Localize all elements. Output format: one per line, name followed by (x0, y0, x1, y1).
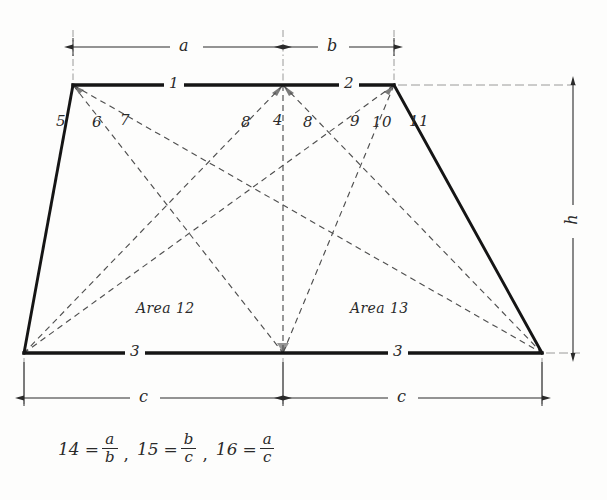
formula-15: 15 = b c (137, 432, 197, 466)
node-label-10: 10 (372, 113, 392, 131)
node-label-9: 9 (350, 112, 360, 130)
formula-14-numerator: a (102, 432, 117, 448)
formula-row: 14 = a b , 15 = b c , 16 = a c (58, 432, 279, 466)
node-label-8-right: 8 (303, 113, 313, 131)
dimension-c-right-label: c (397, 387, 406, 406)
formula-16-numerator: a (260, 432, 275, 448)
dimension-a-label: a (179, 36, 189, 55)
formula-15-fraction: b c (181, 432, 197, 466)
figure-root: a b c c h 1 2 3 3 5 6 7 8 4 8 9 10 11 Ar… (0, 0, 607, 500)
area-label-12: Area 12 (136, 300, 195, 316)
formula-separator-2: , (202, 444, 207, 466)
node-label-7: 7 (120, 111, 130, 129)
edge-label-bottom-right: 3 (393, 342, 403, 360)
formula-14-fraction: a b (102, 432, 118, 466)
edge-label-top-left: 1 (169, 74, 179, 92)
formula-16-equals: = (242, 439, 256, 459)
formula-15-numerator: b (181, 432, 197, 448)
node-label-5: 5 (56, 112, 66, 130)
formula-15-equals: = (164, 439, 178, 459)
edge-label-gaps (125, 80, 408, 359)
bottom-dimension-line (24, 362, 542, 406)
formula-16-name: 16 (216, 439, 238, 459)
formula-15-name: 15 (137, 439, 159, 459)
trapezoid-diagram (0, 0, 607, 500)
formula-16: 16 = a c (216, 432, 275, 466)
area-label-13: Area 13 (350, 300, 409, 316)
formula-14-equals: = (85, 439, 99, 459)
dimension-h-label: h (562, 214, 581, 224)
node-label-6: 6 (92, 113, 102, 131)
formula-14: 14 = a b (58, 432, 118, 466)
formula-separator-1: , (124, 444, 129, 466)
top-dimension-line (73, 38, 394, 56)
node-label-11: 11 (409, 112, 429, 130)
formula-16-denominator: c (260, 448, 274, 465)
node-label-8-left: 8 (241, 113, 251, 131)
node-label-4: 4 (273, 111, 283, 129)
edge-label-bottom-left: 3 (130, 342, 140, 360)
edge-label-top-right: 2 (344, 74, 354, 92)
line-tr-bl (24, 85, 394, 353)
formula-14-name: 14 (58, 439, 80, 459)
formula-15-denominator: c (181, 448, 195, 465)
dimension-b-label: b (327, 36, 337, 55)
formula-16-fraction: a c (260, 432, 275, 466)
dimension-c-left-label: c (139, 387, 148, 406)
formula-14-denominator: b (102, 448, 118, 465)
